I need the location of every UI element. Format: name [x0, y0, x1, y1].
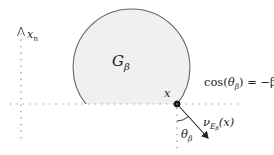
point-label-x: x	[164, 86, 171, 100]
angle-label-theta-beta: θβ	[181, 127, 193, 143]
equation-cos-theta: cos(θβ) = −β	[204, 75, 274, 91]
diagram-canvas: xn Gβ x cos(θβ) = −β νEβ(x) θβ	[0, 0, 274, 155]
angle-arc	[177, 117, 189, 122]
normal-vector-label: νEβ(x)	[203, 115, 234, 132]
region-g-beta	[73, 9, 190, 126]
axis-label-xn: xn	[27, 28, 38, 43]
xn-axis-arrow-icon	[18, 27, 25, 36]
